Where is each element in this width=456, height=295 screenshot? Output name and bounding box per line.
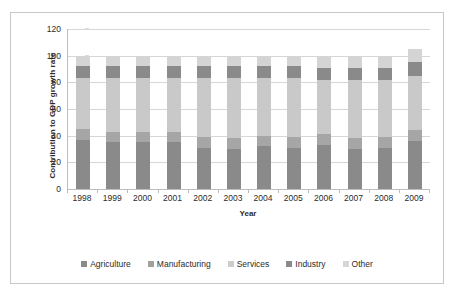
bar-segment[interactable]	[197, 137, 211, 148]
bar-stack	[76, 56, 90, 189]
bar-segment[interactable]	[348, 80, 362, 139]
bar-column[interactable]	[227, 29, 241, 189]
bar-segment[interactable]	[348, 68, 362, 80]
x-axis-tick-labels: 1998199920002001200220032004200520062007…	[67, 193, 429, 207]
legend-label: Industry	[295, 259, 325, 269]
bar-segment[interactable]	[257, 146, 271, 189]
y-axis-tick-label: 80	[33, 77, 61, 87]
bar-stack	[197, 56, 211, 189]
x-axis-tick-mark	[97, 189, 98, 193]
bar-segment[interactable]	[408, 49, 422, 62]
bar-segment[interactable]	[287, 56, 301, 67]
bar-stack	[227, 56, 241, 189]
bar-segment[interactable]	[136, 78, 150, 131]
chart-legend: AgricultureManufacturingServicesIndustry…	[11, 259, 443, 269]
legend-item[interactable]: Services	[228, 259, 270, 269]
legend-label: Services	[237, 259, 270, 269]
bar-segment[interactable]	[167, 142, 181, 189]
bar-segment[interactable]	[106, 142, 120, 189]
x-axis-tick-label: 2003	[223, 193, 242, 203]
y-axis-tick-label: 20	[33, 157, 61, 167]
bar-segment[interactable]	[106, 78, 120, 131]
bar-segment[interactable]	[167, 56, 181, 67]
bar-segment[interactable]	[106, 56, 120, 67]
bar-segment[interactable]	[227, 66, 241, 78]
x-axis-tick-mark	[308, 189, 309, 193]
legend-swatch-icon	[286, 261, 292, 267]
x-axis-tick-label: 1999	[103, 193, 122, 203]
bar-segment[interactable]	[197, 56, 211, 67]
bar-segment[interactable]	[287, 66, 301, 78]
bar-segment[interactable]	[167, 78, 181, 131]
bar-segment[interactable]	[317, 56, 331, 68]
bar-segment[interactable]	[136, 66, 150, 78]
bar-segment[interactable]	[227, 78, 241, 138]
bar-segment[interactable]	[167, 132, 181, 143]
bar-segment[interactable]	[106, 132, 120, 143]
bar-segment[interactable]	[76, 78, 90, 129]
bar-segment[interactable]	[408, 141, 422, 189]
bar-column[interactable]	[167, 29, 181, 189]
bar-segment[interactable]	[348, 56, 362, 68]
x-axis-tick-label: 2008	[374, 193, 393, 203]
bar-segment[interactable]	[378, 137, 392, 148]
bar-segment[interactable]	[136, 142, 150, 189]
bar-segment[interactable]	[136, 56, 150, 67]
bar-column[interactable]	[348, 29, 362, 189]
bar-column[interactable]	[378, 29, 392, 189]
legend-swatch-icon	[228, 261, 234, 267]
bar-segment[interactable]	[287, 78, 301, 137]
bar-column[interactable]	[287, 29, 301, 189]
bar-segment[interactable]	[136, 132, 150, 143]
bar-segment[interactable]	[408, 76, 422, 131]
bar-column[interactable]	[106, 29, 120, 189]
x-axis-tick-mark	[127, 189, 128, 193]
chart-canvas: Contribution to GDP growth rate 02040608…	[11, 13, 443, 283]
bar-segment[interactable]	[197, 148, 211, 189]
bar-segment[interactable]	[287, 148, 301, 189]
bar-segment[interactable]	[408, 62, 422, 75]
legend-item[interactable]: Industry	[286, 259, 325, 269]
bar-segment[interactable]	[317, 68, 331, 80]
legend-item[interactable]: Manufacturing	[148, 259, 211, 269]
bar-segment[interactable]	[408, 130, 422, 141]
x-axis-tick-mark	[67, 189, 68, 193]
bar-segment[interactable]	[227, 149, 241, 189]
bar-segment[interactable]	[378, 148, 392, 189]
bar-column[interactable]	[408, 29, 422, 189]
bar-segment[interactable]	[76, 140, 90, 189]
bar-segment[interactable]	[227, 138, 241, 149]
bar-segment[interactable]	[257, 56, 271, 67]
x-axis-tick-mark	[158, 189, 159, 193]
bar-segment[interactable]	[227, 56, 241, 67]
x-axis-tick-label: 2000	[133, 193, 152, 203]
legend-item[interactable]: Other	[343, 259, 373, 269]
bar-segment[interactable]	[378, 80, 392, 137]
bar-segment[interactable]	[257, 136, 271, 147]
bar-column[interactable]	[76, 29, 90, 189]
bar-segment[interactable]	[257, 66, 271, 78]
bar-segment[interactable]	[317, 134, 331, 145]
bar-segment[interactable]	[287, 137, 301, 148]
bar-segment[interactable]	[197, 66, 211, 78]
bar-segment[interactable]	[76, 129, 90, 140]
bar-segment[interactable]	[167, 66, 181, 78]
bar-segment[interactable]	[106, 66, 120, 78]
bar-segment[interactable]	[378, 56, 392, 68]
bar-segment[interactable]	[317, 80, 331, 135]
bar-segment[interactable]	[317, 145, 331, 189]
bar-segment[interactable]	[197, 78, 211, 137]
bar-column[interactable]	[197, 29, 211, 189]
bar-segment[interactable]	[76, 66, 90, 78]
bar-segment[interactable]	[348, 138, 362, 149]
bar-segment[interactable]	[257, 78, 271, 135]
bar-column[interactable]	[136, 29, 150, 189]
x-axis-tick-label: 2004	[254, 193, 273, 203]
legend-item[interactable]: Agriculture	[81, 259, 131, 269]
bar-segment[interactable]	[348, 149, 362, 189]
bar-segment[interactable]	[378, 68, 392, 80]
bar-column[interactable]	[317, 29, 331, 189]
bar-column[interactable]	[257, 29, 271, 189]
y-axis-tick-label: 120	[33, 24, 61, 34]
bar-segment[interactable]	[76, 56, 90, 67]
